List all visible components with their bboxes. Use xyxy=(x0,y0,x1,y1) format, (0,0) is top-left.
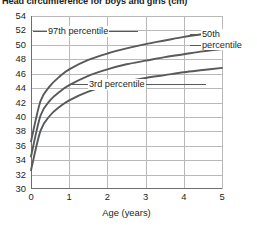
x-axis-tick-label: 4 xyxy=(175,192,193,202)
x-axis-tick-label: 5 xyxy=(213,192,231,202)
y-axis-tick-label: 40 xyxy=(3,112,26,122)
x-axis-title: Age (years) xyxy=(31,207,222,218)
x-axis-tick-label: 2 xyxy=(98,192,116,202)
annotation-97th-percentile: 97th percentile xyxy=(47,26,109,37)
annotation-3rd-percentile: 3rd percentile xyxy=(88,79,146,90)
y-axis-tick-label: 38 xyxy=(3,126,26,136)
x-axis-tick-label: 1 xyxy=(60,192,78,202)
y-axis-tick-label: 46 xyxy=(3,69,26,79)
x-axis-tick-label: 0 xyxy=(22,192,40,202)
leader-line-3rd-right xyxy=(146,84,206,85)
annotation-50th-line2: percentile xyxy=(202,40,242,50)
y-axis-tick-label: 34 xyxy=(3,155,26,165)
curve-50th-percentile xyxy=(31,49,222,156)
annotation-50th-percentile: 50th percentile xyxy=(201,29,255,50)
y-axis-tick-label: 32 xyxy=(3,170,26,180)
chart-container: Head circumference for boys and girls (c… xyxy=(0,0,257,231)
y-axis-tick-label: 42 xyxy=(3,98,26,108)
annotation-50th-line1: 50th xyxy=(202,29,220,39)
percentile-curves xyxy=(31,16,222,189)
y-axis-tick-label: 48 xyxy=(3,54,26,64)
y-axis-tick-label: 54 xyxy=(3,11,26,21)
x-axis-tick-label: 3 xyxy=(137,192,155,202)
chart-title: Head circumference for boys and girls (c… xyxy=(2,0,187,6)
plot-area xyxy=(31,16,222,189)
y-axis-tick-label: 52 xyxy=(3,25,26,35)
y-axis-tick-label: 44 xyxy=(3,83,26,93)
y-axis-tick-label: 50 xyxy=(3,40,26,50)
y-axis-tick-label: 36 xyxy=(3,141,26,151)
